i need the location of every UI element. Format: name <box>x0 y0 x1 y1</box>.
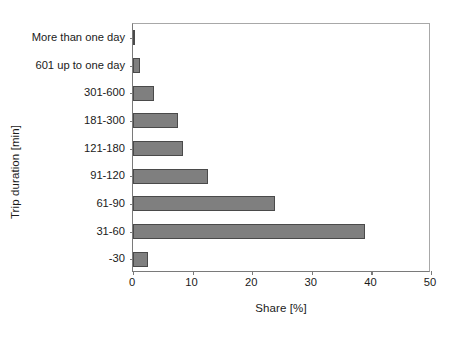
y-axis-tick-label: 181-300 <box>0 114 125 126</box>
x-axis-tick <box>312 271 313 275</box>
x-axis-tick-label: 10 <box>185 276 197 288</box>
bar <box>133 141 183 156</box>
x-axis-tick-label: 20 <box>245 276 257 288</box>
x-axis-title: Share [%] <box>132 302 430 314</box>
bar-chart: Trip duration [min] More than one day601… <box>0 0 462 344</box>
bar-row <box>133 190 275 218</box>
x-axis-tick <box>371 271 372 275</box>
x-axis-tick <box>133 271 134 275</box>
y-axis-tick <box>130 259 134 260</box>
y-axis-tick <box>130 204 134 205</box>
bar <box>133 113 178 128</box>
x-axis-tick-label: 30 <box>305 276 317 288</box>
y-axis-tick-label: 31-60 <box>0 225 125 237</box>
x-axis-tick-label: 50 <box>424 276 436 288</box>
y-axis-tick <box>130 66 134 67</box>
x-axis-tick <box>193 271 194 275</box>
y-axis-tick-label: 601 up to one day <box>0 59 125 71</box>
bar-row <box>133 135 183 163</box>
x-axis-tick-label: 0 <box>129 276 135 288</box>
bar-row <box>133 245 148 273</box>
bar <box>133 252 148 267</box>
bar-row <box>133 107 178 135</box>
y-axis-tick-labels: More than one day601 up to one day301-60… <box>0 23 132 272</box>
bar-row <box>133 52 140 80</box>
plot-area <box>132 23 430 272</box>
y-axis-tick <box>130 149 134 150</box>
bar-row <box>133 218 365 246</box>
x-axis-tick-label: 40 <box>364 276 376 288</box>
y-axis-tick-label: 61-90 <box>0 197 125 209</box>
bar <box>133 58 140 73</box>
bar-row <box>133 24 135 52</box>
y-axis-tick <box>130 93 134 94</box>
x-axis-tick <box>431 271 432 275</box>
x-axis-tick-labels: 01020304050 <box>132 276 430 292</box>
y-axis-tick-label: -30 <box>0 252 125 264</box>
x-axis-tick <box>252 271 253 275</box>
bar-row <box>133 162 208 190</box>
bar <box>133 86 154 101</box>
bar-row <box>133 79 154 107</box>
y-axis-tick <box>130 176 134 177</box>
y-axis-tick-label: More than one day <box>0 31 125 43</box>
bar <box>133 169 208 184</box>
bar <box>133 30 135 45</box>
y-axis-tick-label: 91-120 <box>0 169 125 181</box>
y-axis-tick <box>130 38 134 39</box>
y-axis-tick <box>130 232 134 233</box>
y-axis-tick <box>130 121 134 122</box>
y-axis-tick-label: 301-600 <box>0 86 125 98</box>
y-axis-tick-label: 121-180 <box>0 142 125 154</box>
bar <box>133 196 275 211</box>
bar <box>133 224 365 239</box>
